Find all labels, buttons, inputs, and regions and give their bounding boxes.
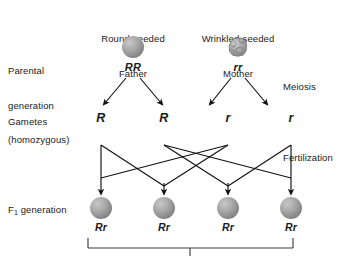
f1-summary-bracket bbox=[88, 238, 293, 256]
fertilization-line-cross-a bbox=[101, 145, 164, 186]
fertilization-line-long-left bbox=[101, 145, 228, 178]
meiosis-arrow-mother-left bbox=[211, 78, 231, 103]
fertilization-line-long-right bbox=[164, 145, 291, 178]
connector-lines-layer bbox=[0, 0, 350, 256]
fertilization-line-cross-d bbox=[228, 145, 291, 186]
genetics-cross-diagram: Parental generation (homozygous) Gametes… bbox=[0, 0, 350, 256]
meiosis-arrow-father-left bbox=[105, 78, 126, 103]
meiosis-arrow-mother-right bbox=[245, 78, 266, 103]
meiosis-arrow-father-right bbox=[140, 78, 161, 103]
